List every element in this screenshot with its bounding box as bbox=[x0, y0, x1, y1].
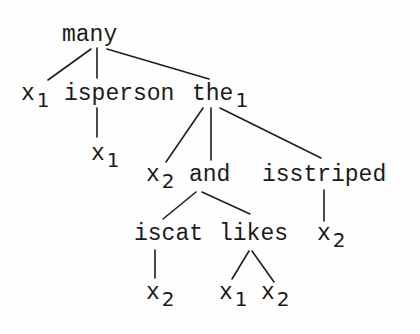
edge-many-x1 bbox=[48, 49, 91, 80]
node-label: the bbox=[192, 81, 233, 107]
tree-diagram: many x1 isperson the1 x1 x2 and isstripe… bbox=[0, 0, 420, 334]
node-label: iscat bbox=[134, 221, 203, 247]
node-and: and bbox=[189, 164, 230, 187]
node-label: isperson bbox=[64, 81, 174, 107]
node-likes-x2: x2 bbox=[261, 282, 290, 305]
node-subscript: 1 bbox=[235, 287, 248, 311]
node-likes: likes bbox=[219, 223, 288, 246]
node-iscat-x2: x2 bbox=[146, 282, 175, 305]
node-label: x bbox=[91, 141, 105, 167]
node-subscript: 1 bbox=[37, 88, 50, 112]
node-label: likes bbox=[219, 221, 288, 247]
node-isstriped: isstriped bbox=[262, 164, 386, 187]
edge-likes-x1 bbox=[232, 251, 249, 279]
node-subscript: 2 bbox=[162, 169, 175, 193]
node-subscript: 2 bbox=[277, 287, 290, 311]
node-the: the1 bbox=[192, 83, 248, 106]
node-label: x bbox=[146, 162, 160, 188]
node-subscript: 2 bbox=[333, 228, 346, 252]
node-isperson: isperson bbox=[64, 83, 174, 106]
node-x1-var: x1 bbox=[21, 83, 50, 106]
node-label: x bbox=[219, 280, 233, 306]
edge-many-the bbox=[107, 49, 209, 79]
edge-and-iscat bbox=[163, 192, 196, 219]
edge-and-likes bbox=[202, 192, 250, 214]
node-isperson-x1: x1 bbox=[91, 143, 120, 166]
node-label: and bbox=[189, 162, 230, 188]
node-the-x2: x2 bbox=[146, 164, 175, 187]
node-subscript: 1 bbox=[107, 148, 120, 172]
node-label: many bbox=[62, 22, 117, 48]
node-likes-x1: x1 bbox=[219, 282, 248, 305]
node-isstriped-x2: x2 bbox=[317, 223, 346, 246]
node-label: isstriped bbox=[262, 162, 386, 188]
node-label: x bbox=[21, 81, 35, 107]
edge-the-x2 bbox=[166, 108, 203, 162]
node-subscript: 1 bbox=[235, 88, 248, 112]
node-label: x bbox=[317, 221, 331, 247]
node-label: x bbox=[261, 280, 275, 306]
edge-likes-x2 bbox=[252, 251, 274, 282]
node-subscript: 2 bbox=[162, 287, 175, 311]
edge-the-isstriped bbox=[220, 108, 321, 158]
node-label: x bbox=[146, 280, 160, 306]
node-iscat: iscat bbox=[134, 223, 203, 246]
node-many: many bbox=[62, 24, 117, 47]
